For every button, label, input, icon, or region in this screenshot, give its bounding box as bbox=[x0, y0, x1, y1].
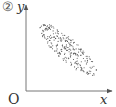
data-point bbox=[86, 58, 87, 59]
data-point bbox=[61, 51, 62, 52]
data-point bbox=[51, 25, 52, 26]
data-point bbox=[55, 38, 56, 39]
data-point bbox=[83, 50, 84, 51]
data-point bbox=[76, 61, 77, 62]
data-point bbox=[44, 24, 45, 25]
data-point bbox=[80, 50, 81, 51]
data-point bbox=[52, 48, 53, 49]
data-point bbox=[43, 31, 44, 32]
data-point bbox=[61, 33, 62, 34]
data-point bbox=[80, 67, 81, 68]
figure-number-label: ② bbox=[2, 0, 14, 13]
data-point bbox=[57, 32, 58, 33]
data-point bbox=[42, 36, 43, 37]
data-point bbox=[93, 66, 94, 67]
data-point bbox=[63, 58, 64, 59]
data-point bbox=[70, 45, 71, 46]
data-point bbox=[54, 40, 55, 41]
data-point bbox=[63, 38, 64, 39]
data-point bbox=[64, 53, 65, 54]
data-point bbox=[87, 56, 88, 57]
data-point bbox=[79, 64, 80, 65]
data-point bbox=[76, 48, 77, 49]
data-point bbox=[69, 44, 70, 45]
data-point bbox=[53, 27, 54, 28]
data-point bbox=[69, 45, 70, 46]
data-point bbox=[47, 42, 48, 43]
data-point bbox=[69, 39, 70, 40]
data-point bbox=[93, 73, 94, 74]
data-point bbox=[58, 31, 59, 32]
data-point bbox=[71, 45, 72, 46]
data-point bbox=[70, 40, 71, 41]
data-point bbox=[46, 26, 47, 27]
data-point bbox=[85, 60, 86, 61]
data-point bbox=[48, 29, 49, 30]
data-point bbox=[75, 62, 76, 63]
data-point bbox=[59, 52, 60, 53]
y-axis-label: y bbox=[17, 0, 24, 13]
data-point bbox=[50, 35, 51, 36]
data-point bbox=[44, 34, 45, 35]
data-point bbox=[83, 54, 84, 55]
data-point bbox=[60, 49, 61, 50]
data-point bbox=[70, 55, 71, 56]
data-point bbox=[80, 55, 81, 56]
data-point bbox=[46, 39, 47, 40]
data-point bbox=[49, 36, 50, 37]
data-point bbox=[51, 47, 52, 48]
data-point bbox=[83, 58, 84, 59]
data-point bbox=[57, 48, 58, 49]
data-point bbox=[51, 37, 52, 38]
data-point bbox=[44, 38, 45, 39]
data-point bbox=[64, 35, 65, 36]
data-point bbox=[77, 58, 78, 59]
data-point bbox=[73, 42, 74, 43]
data-point bbox=[67, 37, 68, 38]
data-point bbox=[87, 60, 88, 61]
data-point bbox=[74, 49, 75, 50]
data-point bbox=[77, 55, 78, 56]
data-point bbox=[66, 40, 67, 41]
data-point bbox=[60, 53, 61, 54]
data-point bbox=[89, 56, 90, 57]
data-point bbox=[91, 68, 92, 69]
data-point bbox=[87, 74, 88, 75]
data-point bbox=[78, 55, 79, 56]
data-point bbox=[57, 29, 58, 30]
data-point bbox=[45, 28, 46, 29]
data-point bbox=[64, 54, 65, 55]
data-point bbox=[66, 58, 67, 59]
data-point bbox=[62, 45, 63, 46]
data-point bbox=[70, 42, 71, 43]
data-point bbox=[53, 30, 54, 31]
data-point bbox=[57, 53, 58, 54]
data-point bbox=[61, 41, 62, 42]
data-point bbox=[80, 70, 81, 71]
data-point bbox=[67, 41, 68, 42]
data-point bbox=[61, 39, 62, 40]
data-point bbox=[93, 74, 94, 75]
data-point bbox=[56, 46, 57, 47]
data-point bbox=[86, 56, 87, 57]
data-point bbox=[57, 36, 58, 37]
data-point bbox=[60, 37, 61, 38]
data-point bbox=[42, 30, 43, 31]
data-point bbox=[77, 60, 78, 61]
data-point bbox=[57, 30, 58, 31]
data-point bbox=[53, 33, 54, 34]
data-point bbox=[64, 58, 65, 59]
data-point bbox=[63, 60, 64, 61]
data-point bbox=[68, 38, 69, 39]
data-point bbox=[89, 71, 90, 72]
data-point bbox=[76, 68, 77, 69]
data-point bbox=[81, 69, 82, 70]
data-point bbox=[68, 57, 69, 58]
data-point bbox=[66, 38, 67, 39]
data-point bbox=[81, 61, 82, 62]
data-point bbox=[49, 26, 50, 27]
data-point bbox=[40, 27, 41, 28]
data-point bbox=[83, 52, 84, 53]
data-point bbox=[91, 61, 92, 62]
data-point bbox=[63, 37, 64, 38]
